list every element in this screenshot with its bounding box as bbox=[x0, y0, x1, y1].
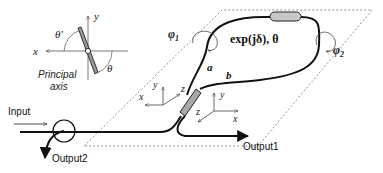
input-label: Input bbox=[8, 106, 30, 117]
principal-axis-label-line1: Principal bbox=[38, 69, 77, 80]
phi1-label: φ1 bbox=[168, 27, 179, 43]
inset-y-label: y bbox=[93, 10, 99, 22]
right-axes-z-label: z bbox=[195, 106, 200, 117]
phase-element bbox=[270, 12, 301, 21]
principal-axis-label-line2: axis bbox=[50, 81, 68, 92]
arm-a-label: a bbox=[207, 61, 213, 73]
coupler-axes-left bbox=[145, 87, 180, 105]
theta-label: θ bbox=[107, 62, 113, 74]
left-axes-y-label: y bbox=[152, 79, 158, 90]
arm-b-label: b bbox=[226, 69, 232, 81]
output2-label: Output2 bbox=[52, 153, 88, 164]
right-axes-x-label: x bbox=[232, 113, 238, 124]
phase-element-label: exp(jδ), θ bbox=[230, 32, 278, 46]
diagram-canvas: y x θ' θ Principal axis φ1 φ2 exp(jδ), θ… bbox=[0, 0, 383, 173]
theta-prime-label: θ' bbox=[55, 28, 63, 40]
coupler-axes-right bbox=[198, 93, 238, 122]
main-fiber bbox=[14, 116, 248, 158]
left-axes-z-label: z bbox=[180, 83, 185, 94]
right-axes-y-label: y bbox=[219, 89, 225, 100]
left-axes-x-label: x bbox=[138, 91, 144, 102]
output1-label: Output1 bbox=[243, 141, 279, 152]
inset-x-label: x bbox=[32, 45, 38, 57]
